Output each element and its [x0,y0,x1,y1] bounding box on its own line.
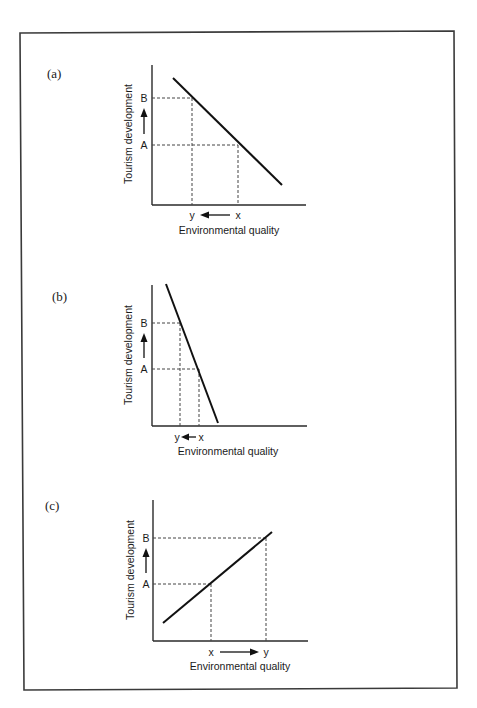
panel-a: (a) B A Tourism development y x Environm… [47,65,306,236]
panel-c: (c) B A Tourism development x y Environm… [45,498,308,672]
panel-label-b: (b) [52,289,67,304]
marker-b-c: B [142,532,149,544]
marker-left-b: y [174,431,180,443]
marker-left-a: y [189,209,195,221]
y-axis-title-c: Tourism development [124,520,136,620]
marker-b-b: B [140,317,147,329]
figure-frame [20,31,457,690]
marker-a-c: A [142,578,149,590]
left-arrow-icon [181,434,196,441]
y-axis-title-a: Tourism development [122,84,134,184]
x-axis-title-b: Environmental quality [178,445,279,457]
panel-label-c: (c) [45,498,59,513]
figure-canvas: (a) B A Tourism development y x Environm… [0,0,477,708]
marker-b-a: B [140,92,147,104]
up-arrow-icon [141,333,148,358]
relationship-line-c [163,532,272,623]
x-axis-title-a: Environmental quality [179,224,280,236]
up-arrow-icon [143,548,150,573]
marker-a-b: A [140,363,147,375]
marker-left-c: x [208,646,214,658]
relationship-line-a [173,78,282,185]
right-arrow-icon [220,649,259,656]
y-axis-title-b: Tourism development [122,305,134,405]
marker-right-c: y [263,646,269,658]
panel-label-a: (a) [47,66,61,81]
marker-right-a: x [235,209,241,221]
x-axis-title-c: Environmental quality [190,660,291,672]
up-arrow-icon [141,108,148,134]
panel-b: (b) B A Tourism development y x Environm… [52,284,307,457]
left-arrow-icon [200,212,230,219]
marker-right-b: x [198,431,204,443]
marker-a-a: A [140,139,147,151]
relationship-line-b [166,284,218,423]
